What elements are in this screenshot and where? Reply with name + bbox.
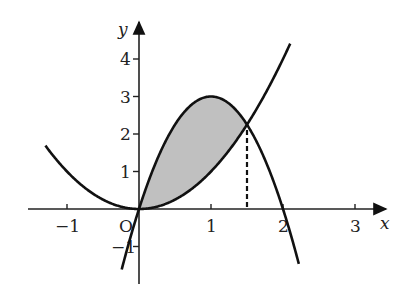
shaded-region (139, 97, 247, 210)
x-tick-label: −1 (55, 216, 80, 236)
x-axis-label: x (380, 213, 390, 233)
y-tick-label: 1 (120, 162, 131, 182)
x-tick-label: 1 (206, 216, 217, 236)
y-axis-label: y (117, 19, 128, 39)
y-tick-label: −1 (111, 237, 136, 257)
y-tick-label: 3 (120, 87, 131, 107)
y-tick-label: 2 (120, 124, 131, 144)
diagram: −1123−11234 x y O (0, 0, 419, 286)
y-tick-label: 4 (120, 49, 131, 69)
origin-label: O (119, 216, 133, 236)
x-tick-label: 3 (350, 216, 361, 236)
